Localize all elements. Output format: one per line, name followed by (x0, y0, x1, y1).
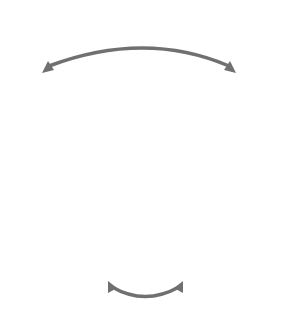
top-arrowhead-left-icon (42, 61, 54, 73)
strips-diagram (0, 0, 285, 336)
bottom-arrowhead-left-icon (108, 281, 117, 293)
top-swap-arrow-icon (49, 48, 229, 66)
bottom-swap-arrow-icon (112, 287, 179, 297)
bottom-arrowhead-right-icon (174, 281, 183, 293)
